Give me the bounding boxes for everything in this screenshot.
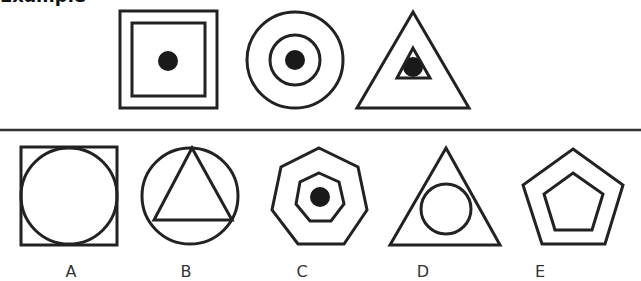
example-square-figure [120, 11, 217, 108]
option-a-figure[interactable] [21, 147, 117, 245]
option-b-figure[interactable] [142, 148, 238, 244]
center-dot [158, 51, 178, 71]
option-a-label: A [66, 262, 77, 281]
puzzle-figure: A B C D E [0, 0, 641, 281]
option-e-figure[interactable] [523, 149, 623, 244]
option-c-figure[interactable] [272, 148, 367, 244]
inner-pentagon-shape [544, 173, 603, 230]
option-d-label: D [417, 262, 429, 281]
circle-shape [142, 148, 238, 244]
option-c-label: C [296, 262, 307, 281]
circle-shape [21, 148, 117, 244]
option-b-label: B [181, 262, 192, 281]
center-dot [310, 187, 330, 207]
example-circle-figure [247, 12, 343, 108]
triangle-shape [390, 148, 500, 245]
example-triangle-figure [357, 12, 469, 108]
center-dot [285, 50, 305, 70]
circle-shape [421, 184, 471, 234]
option-d-figure[interactable] [390, 148, 500, 245]
option-e-label: E [535, 262, 545, 281]
